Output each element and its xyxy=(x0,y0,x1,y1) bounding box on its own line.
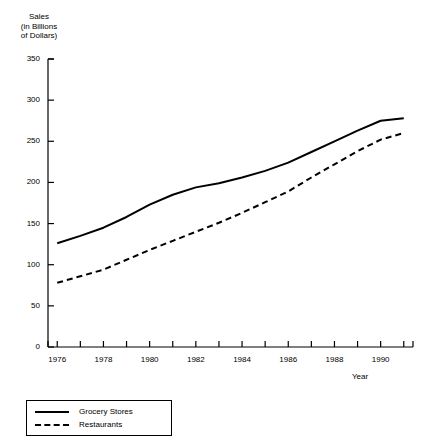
legend-label: Restaurants xyxy=(79,419,122,430)
legend-swatch-dashed-line xyxy=(35,424,69,426)
legend-swatch-solid-line xyxy=(35,411,69,413)
axes xyxy=(48,59,413,347)
plot-area xyxy=(0,0,434,448)
data-series xyxy=(57,118,404,283)
line-chart: Sales (in Billions of Dollars) Year 0501… xyxy=(0,0,434,448)
legend-label: Grocery Stores xyxy=(79,406,133,417)
chart-legend: Grocery Stores Restaurants xyxy=(26,400,172,436)
